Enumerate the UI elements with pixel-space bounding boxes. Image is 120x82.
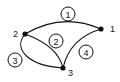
node-3 [60,65,65,70]
edge-1 [25,22,101,34]
node-1 [98,26,103,31]
edge-label-text-1: 1 [65,10,70,20]
edge-labels: 1 2 3 4 [8,7,93,67]
edge-label-4: 4 [79,45,93,59]
node-label-1: 1 [110,24,115,34]
edge-label-text-2: 2 [53,37,58,47]
edge-label-text-4: 4 [83,48,88,58]
edge-label-text-3: 3 [12,56,17,66]
node-label-2: 2 [13,29,18,39]
edge-label-2: 2 [49,34,63,48]
graph-diagram: 1 2 3 4 1 2 3 [0,0,120,82]
node-2 [22,31,27,36]
node-label-3: 3 [68,68,73,78]
edge-label-3: 3 [8,53,22,67]
edge-label-1: 1 [61,7,75,21]
